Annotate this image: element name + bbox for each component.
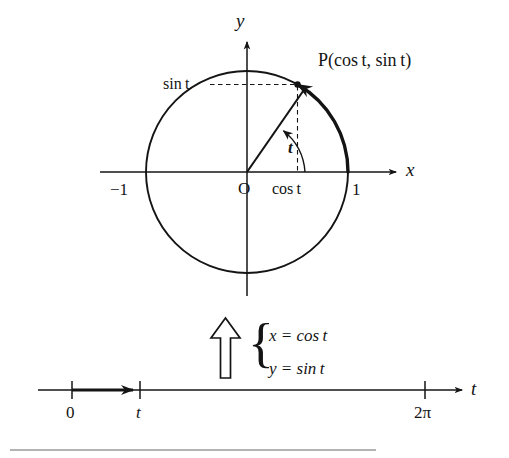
x-axis-label: x xyxy=(406,160,414,179)
x-tick-label-one: 1 xyxy=(352,181,361,198)
figure-container: y x O −1 1 sin t cos t t P(cos t, sin t)… xyxy=(0,0,509,458)
cos-t-label: cos t xyxy=(272,181,301,197)
point-p-label: P(cos t, sin t) xyxy=(318,51,411,69)
sin-t-label: sin t xyxy=(163,76,189,92)
angle-t-label: t xyxy=(288,139,293,156)
hollow-up-arrow-icon xyxy=(211,318,240,378)
number-line-tick-label-2pi: 2π xyxy=(414,404,431,421)
traced-arc xyxy=(298,85,349,172)
number-line-tick-label-0: 0 xyxy=(66,404,75,421)
x-tick-label-minus-one: −1 xyxy=(110,181,128,198)
number-line-tick-label-t: t xyxy=(136,404,141,421)
equation-x: x = cos t xyxy=(269,327,327,344)
equation-y: y = sin t xyxy=(269,360,324,377)
number-line-axis-label: t xyxy=(471,379,476,398)
angle-arc xyxy=(284,131,306,172)
y-axis-label: y xyxy=(236,11,244,30)
unit-circle-diagram-svg xyxy=(0,0,509,458)
origin-label: O xyxy=(238,180,250,197)
radius-line xyxy=(247,91,304,173)
